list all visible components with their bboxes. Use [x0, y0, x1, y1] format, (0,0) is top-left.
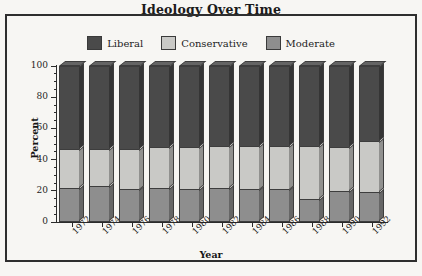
bar-segment-moderate[interactable] [179, 189, 200, 222]
bar-segment-side-face [139, 146, 144, 189]
bar-segment-liberal[interactable] [269, 66, 290, 146]
bar-segment-side-face [139, 186, 144, 221]
legend-item-conservative[interactable]: Conservative [161, 36, 247, 50]
bar-segment-side-face [169, 63, 174, 147]
bar-segment-conservative[interactable] [209, 146, 230, 188]
bar-segment-conservative[interactable] [89, 149, 110, 186]
y-tick-label: 40 [37, 154, 48, 164]
bar-segment-side-face [289, 63, 294, 145]
bar-segment-side-face [289, 186, 294, 221]
x-axis-title: Year [0, 249, 422, 260]
plot-area: 020406080100 197219741976197819801982198… [57, 66, 387, 222]
bar-segment-side-face [169, 144, 174, 187]
bar-segment-side-face [109, 146, 114, 186]
bar-segment-side-face [199, 63, 204, 147]
legend-item-moderate[interactable]: Moderate [266, 36, 335, 50]
bar-segment-side-face [139, 63, 144, 149]
bar-segment-liberal[interactable] [179, 66, 200, 147]
bar-segment-side-face [259, 63, 264, 145]
legend-item-label: Liberal [107, 38, 143, 49]
bar-segment-side-face [289, 143, 294, 190]
bar-segment-side-face [79, 185, 84, 221]
bar-segment-side-face [79, 63, 84, 149]
legend-item-label: Conservative [181, 38, 247, 49]
bar-segment-side-face [319, 196, 324, 221]
stacked-bar[interactable] [119, 66, 140, 222]
stacked-bar[interactable] [269, 66, 290, 222]
bar-segment-side-face [349, 144, 354, 191]
bar-segment-liberal[interactable] [299, 66, 320, 146]
bar-segment-moderate[interactable] [239, 189, 260, 222]
bar-segment-side-face [349, 188, 354, 221]
stacked-bar[interactable] [209, 66, 230, 222]
bar-segment-conservative[interactable] [299, 146, 320, 199]
bar-segment-side-face [319, 63, 324, 145]
y-tick-label: 20 [37, 185, 48, 195]
bar-segment-side-face [109, 63, 114, 149]
bar-segment-side-face [169, 185, 174, 221]
bar-segment-side-face [199, 144, 204, 189]
bar-segment-conservative[interactable] [359, 141, 380, 192]
stacked-bar[interactable] [89, 66, 110, 222]
bar-segment-liberal[interactable] [359, 66, 380, 141]
bar-segment-side-face [379, 189, 384, 221]
legend-item-label: Moderate [286, 38, 335, 49]
legend-item-liberal[interactable]: Liberal [87, 36, 143, 50]
bar-segment-conservative[interactable] [119, 149, 140, 190]
chart-root: Ideology Over Time LiberalConservativeMo… [0, 0, 422, 276]
bar-segment-moderate[interactable] [359, 192, 380, 222]
bar-segment-conservative[interactable] [149, 147, 170, 188]
bar-segment-moderate[interactable] [89, 186, 110, 222]
bar-segment-side-face [79, 146, 84, 188]
bar-group [57, 66, 387, 222]
bar-segment-conservative[interactable] [329, 147, 350, 191]
bar-segment-conservative[interactable] [179, 147, 200, 189]
y-tick-label: 100 [31, 60, 48, 70]
bar-segment-side-face [259, 186, 264, 221]
stacked-bar[interactable] [59, 66, 80, 222]
bar-segment-conservative[interactable] [59, 149, 80, 188]
bar-segment-side-face [229, 63, 234, 145]
chart-title: Ideology Over Time [0, 2, 422, 17]
bar-segment-side-face [379, 138, 384, 192]
stacked-bar[interactable] [299, 66, 320, 222]
stacked-bar[interactable] [149, 66, 170, 222]
bar-segment-side-face [229, 143, 234, 188]
bar-segment-side-face [199, 186, 204, 221]
legend-swatch-icon [161, 36, 176, 50]
bar-segment-side-face [109, 183, 114, 221]
stacked-bar[interactable] [179, 66, 200, 222]
legend-swatch-icon [266, 36, 281, 50]
bar-segment-moderate[interactable] [209, 188, 230, 222]
chart-legend: LiberalConservativeModerate [0, 36, 422, 50]
bar-segment-side-face [349, 63, 354, 147]
bar-segment-side-face [229, 185, 234, 221]
bar-segment-side-face [379, 63, 384, 141]
bar-segment-moderate[interactable] [59, 188, 80, 222]
bar-segment-conservative[interactable] [239, 146, 260, 190]
bar-segment-liberal[interactable] [119, 66, 140, 149]
bar-segment-liberal[interactable] [329, 66, 350, 147]
bar-segment-liberal[interactable] [59, 66, 80, 149]
bar-segment-liberal[interactable] [239, 66, 260, 146]
y-tick-label: 0 [42, 216, 48, 226]
bar-segment-side-face [259, 143, 264, 190]
stacked-bar[interactable] [359, 66, 380, 222]
bar-segment-liberal[interactable] [149, 66, 170, 147]
y-tick-label: 60 [37, 122, 48, 132]
stacked-bar[interactable] [239, 66, 260, 222]
bar-segment-moderate[interactable] [299, 199, 320, 222]
bar-segment-side-face [319, 143, 324, 199]
bar-segment-moderate[interactable] [149, 188, 170, 222]
bar-segment-liberal[interactable] [209, 66, 230, 146]
bar-segment-moderate[interactable] [269, 189, 290, 222]
bar-segment-conservative[interactable] [269, 146, 290, 190]
stacked-bar[interactable] [329, 66, 350, 222]
bar-segment-liberal[interactable] [89, 66, 110, 149]
bar-segment-moderate[interactable] [329, 191, 350, 222]
bar-segment-moderate[interactable] [119, 189, 140, 222]
legend-swatch-icon [87, 36, 102, 50]
y-tick-label: 80 [37, 91, 48, 101]
